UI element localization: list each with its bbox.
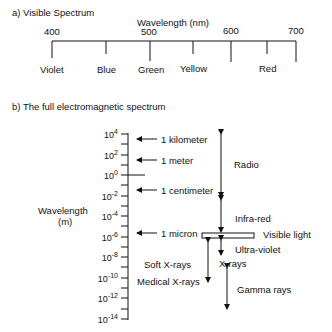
diagram-lines <box>0 0 332 332</box>
